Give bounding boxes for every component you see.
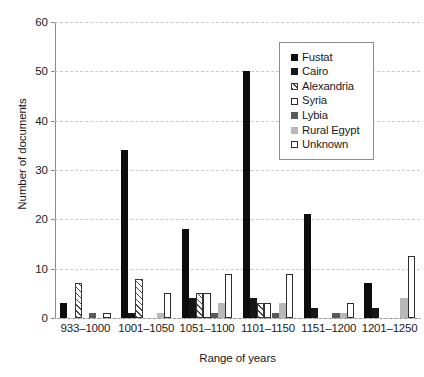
- bar: [157, 313, 164, 318]
- bar: [364, 283, 371, 318]
- legend-swatch-icon: [291, 112, 298, 119]
- bar: [189, 298, 196, 318]
- y-tick-mark: [51, 318, 55, 319]
- bar: [203, 293, 210, 318]
- bar: [332, 313, 339, 318]
- legend-swatch-icon: [291, 141, 298, 148]
- bar-chart: Number of documents 0102030405060 933–10…: [0, 0, 424, 377]
- legend-label: Fustat: [302, 52, 333, 63]
- legend-label: Cairo: [302, 66, 328, 77]
- x-axis-title: Range of years: [55, 352, 420, 364]
- bar-group: [60, 22, 110, 318]
- bar: [75, 283, 82, 318]
- chart-legend: FustatCairoAlexandriaSyriaLybiaRural Egy…: [279, 42, 374, 160]
- y-tick-label: 0: [42, 312, 48, 324]
- bar: [272, 313, 279, 318]
- legend-swatch-icon: [291, 83, 298, 90]
- bar: [340, 313, 347, 318]
- legend-label: Syria: [302, 95, 327, 106]
- bar: [121, 150, 128, 318]
- x-tick-label: 1201–1250: [362, 322, 418, 334]
- y-tick-mark: [51, 219, 55, 220]
- legend-item: Fustat: [291, 50, 365, 65]
- legend-item: Cairo: [291, 65, 365, 80]
- legend-label: Alexandria: [302, 81, 354, 92]
- legend-item: Unknown: [291, 138, 365, 153]
- legend-label: Unknown: [302, 139, 348, 150]
- bar: [257, 303, 264, 318]
- y-tick-label: 30: [35, 164, 48, 176]
- legend-item: Rural Egypt: [291, 123, 365, 138]
- bar: [408, 256, 415, 318]
- x-tick-label: 1001–1050: [118, 322, 174, 334]
- bar: [372, 308, 379, 318]
- y-tick-mark: [51, 170, 55, 171]
- y-tick-mark: [51, 71, 55, 72]
- bar: [211, 313, 218, 318]
- legend-item: Syria: [291, 94, 365, 109]
- x-tick-label: 1101–1150: [241, 322, 295, 334]
- y-tick-label: 60: [35, 16, 48, 28]
- bar: [103, 313, 110, 318]
- legend-swatch-icon: [291, 127, 298, 134]
- legend-label: Lybia: [302, 110, 328, 121]
- bar-group: [121, 22, 171, 318]
- legend-swatch-icon: [291, 98, 298, 105]
- bar: [182, 229, 189, 318]
- bar: [196, 293, 203, 318]
- bar: [304, 214, 311, 318]
- legend-swatch-icon: [291, 54, 298, 61]
- bar: [135, 279, 142, 318]
- bar: [311, 308, 318, 318]
- y-tick-label: 40: [35, 115, 48, 127]
- y-tick-mark: [51, 121, 55, 122]
- bar: [128, 313, 135, 318]
- bar-group: [182, 22, 232, 318]
- bar: [347, 303, 354, 318]
- bar: [279, 303, 286, 318]
- y-tick-label: 20: [35, 213, 48, 225]
- bar: [286, 274, 293, 318]
- legend-item: Alexandria: [291, 79, 365, 94]
- legend-swatch-icon: [291, 68, 298, 75]
- y-axis-title: Number of documents: [16, 44, 28, 264]
- bar: [400, 298, 407, 318]
- bar: [250, 298, 257, 318]
- gridline: [55, 318, 420, 319]
- y-tick-mark: [51, 269, 55, 270]
- y-tick-label: 10: [35, 263, 48, 275]
- x-tick-label: 1051–1100: [180, 322, 235, 334]
- y-tick-label: 50: [35, 65, 48, 77]
- bar: [164, 293, 171, 318]
- y-tick-mark: [51, 22, 55, 23]
- legend-label: Rural Egypt: [302, 125, 359, 136]
- bar: [243, 71, 250, 318]
- legend-item: Lybia: [291, 108, 365, 123]
- bar: [218, 303, 225, 318]
- bar: [60, 303, 67, 318]
- bar: [89, 313, 96, 318]
- bar: [264, 303, 271, 318]
- x-tick-label: 933–1000: [61, 322, 111, 334]
- bar: [225, 274, 232, 318]
- x-tick-label: 1151–1200: [301, 322, 356, 334]
